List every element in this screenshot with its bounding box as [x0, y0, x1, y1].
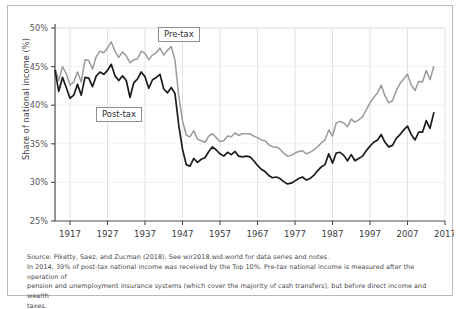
x-tick-label: 1967: [247, 229, 269, 239]
x-tick-label: 2007: [397, 229, 419, 239]
posttax-callout-label: Post-tax: [96, 107, 142, 122]
series-line-pre-tax: [55, 42, 434, 156]
series-line-post-tax: [55, 64, 434, 184]
notes-line-3: pension and unemployment insurance syste…: [27, 282, 442, 302]
x-tick-label: 1937: [134, 229, 156, 239]
line-chart-svg: 25%30%35%40%45%50%1917192719371947195719…: [8, 6, 454, 250]
y-axis-title: Share of national income (%): [21, 19, 31, 179]
x-tick-label: 1977: [284, 229, 306, 239]
x-tick-label: 1947: [172, 229, 194, 239]
y-tick-label: 35%: [30, 139, 48, 149]
y-tick-label: 25%: [30, 216, 48, 226]
x-tick-label: 1917: [59, 229, 81, 239]
x-tick-label: 1987: [322, 229, 344, 239]
pretax-callout-label: Pre-tax: [158, 27, 200, 42]
y-tick-label: 40%: [30, 100, 48, 110]
notes-line-2: In 2014, 39% of post-tax national income…: [27, 263, 442, 283]
chart-area: 25%30%35%40%45%50%1917192719371947195719…: [8, 6, 454, 250]
figure-notes: Source: Piketty, Saez, and Zucman (2018)…: [27, 253, 442, 309]
y-tick-label: 30%: [30, 177, 48, 187]
x-tick-label: 2017: [434, 229, 454, 239]
x-tick-label: 1927: [97, 229, 119, 239]
notes-line-1: Source: Piketty, Saez, and Zucman (2018)…: [27, 253, 442, 263]
figure-frame: 25%30%35%40%45%50%1917192719371947195719…: [7, 5, 453, 296]
y-tick-label: 45%: [30, 62, 48, 72]
notes-line-4: taxes.: [27, 302, 442, 309]
y-tick-label: 50%: [30, 23, 48, 33]
x-tick-label: 1997: [359, 229, 381, 239]
figure-container: 25%30%35%40%45%50%1917192719371947195719…: [0, 0, 462, 309]
x-tick-label: 1957: [209, 229, 231, 239]
